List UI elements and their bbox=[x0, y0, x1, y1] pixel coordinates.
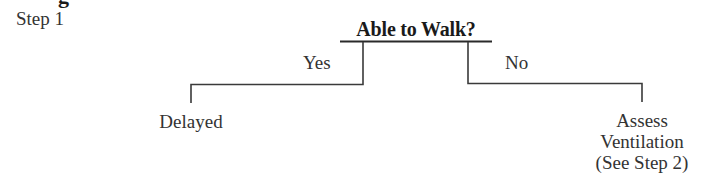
outcome-line: Assess bbox=[572, 110, 706, 131]
outcome-line: Delayed bbox=[140, 111, 242, 132]
outcome-line: (See Step 2) bbox=[572, 152, 706, 173]
no-branch-connector bbox=[468, 42, 642, 102]
outcome-assess-ventilation: Assess Ventilation (See Step 2) bbox=[572, 110, 706, 173]
outcome-line: Ventilation bbox=[572, 131, 706, 152]
branch-label-yes: Yes bbox=[303, 52, 331, 74]
yes-branch-connector bbox=[191, 42, 363, 103]
branch-label-no: No bbox=[505, 52, 528, 74]
outcome-delayed: Delayed bbox=[140, 111, 242, 132]
